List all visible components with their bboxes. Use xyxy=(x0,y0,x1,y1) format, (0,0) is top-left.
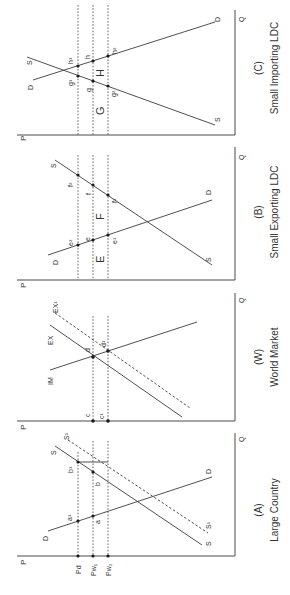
panel-c-letter: (C) xyxy=(253,61,264,75)
panel-c-point-g2 xyxy=(106,84,109,87)
panel-c-demand-label-low: D xyxy=(27,85,34,90)
panel-b-supply-label-high: S xyxy=(205,257,212,262)
panel-c-label-g: g xyxy=(85,88,93,92)
panel-a-title: Large Country xyxy=(269,478,280,541)
panel-b-label-f2: f² xyxy=(67,182,74,187)
panel-a-letter: (A) xyxy=(253,503,264,516)
panel-b-demand-label-low: D xyxy=(52,260,59,265)
panel-b-point-f1 xyxy=(106,193,109,196)
panel-w-label-c1: c¹ xyxy=(98,413,105,420)
panel-a-point-a xyxy=(91,514,94,517)
panel-c-point-h xyxy=(91,59,94,62)
panel-c-demand-curve xyxy=(33,22,215,80)
four-panel-trade-diagram: P Q D S D S h¹ h h² g¹ g g² G H (C) Smal… xyxy=(0,0,290,595)
panel-b-letter: (B) xyxy=(253,205,264,218)
panel-a-price-tick-pd: Pd xyxy=(75,565,82,574)
panel-c-supply-label-low: S xyxy=(26,60,33,65)
panel-w-im-label: IM xyxy=(47,377,54,385)
panel-a-point-a1 xyxy=(76,519,79,522)
panel-c-point-h2 xyxy=(106,54,109,57)
panel-c-demand-label-high: D xyxy=(214,17,221,22)
panel-c-label-h1: h¹ xyxy=(67,57,74,64)
panel-b-label-e1: e¹ xyxy=(111,237,118,244)
panel-w-import-demand-curve xyxy=(50,322,197,370)
panel-c-price-axis-label: P xyxy=(19,136,28,141)
panel-w-ex-label: EX xyxy=(47,335,54,345)
panel-w-point-c xyxy=(91,419,95,423)
panel-w-export-supply-curve xyxy=(50,325,182,417)
panel-c-label-h: h xyxy=(84,55,91,59)
panel-a-quantity-axis-label: Q xyxy=(238,436,246,442)
panel-b-quantity-axis-label: Q xyxy=(238,154,246,160)
panel-c-label-h2: h² xyxy=(111,47,118,54)
panel-w-price-axis-label: P xyxy=(19,425,28,430)
panel-a-label-b1: b¹ xyxy=(67,466,74,473)
panel-a-tick-pd xyxy=(76,554,79,557)
panel-a-label-a1: a¹ xyxy=(66,514,73,521)
panel-a-price-tick-pw2: Pw₂ xyxy=(105,563,112,576)
panel-w-point-d xyxy=(91,355,95,359)
panel-b-point-f2 xyxy=(76,173,79,176)
panel-a-point-b1 xyxy=(76,460,79,463)
panel-b-point-e1 xyxy=(106,233,109,236)
panel-c-label-g2: g² xyxy=(110,90,118,97)
panel-w-title: World Market xyxy=(269,327,280,386)
panel-a-label-b: b xyxy=(94,482,101,486)
panel-b-title: Small Exporting LDC xyxy=(269,166,280,259)
panel-w-world-market: P Q IM EX EX¹ d d¹ c c¹ (W) World Market xyxy=(17,293,280,430)
panel-w-ex1-label: EX¹ xyxy=(52,301,59,313)
panel-a-price-tick-pw1: Pw₁ xyxy=(90,563,97,576)
panel-a-supply-label-low: S xyxy=(50,450,57,455)
panel-b-price-axis-label: P xyxy=(19,283,28,288)
panel-c-point-g xyxy=(91,79,94,82)
panel-a-label-a: a xyxy=(94,520,101,524)
panel-w-label-c: c xyxy=(84,413,91,417)
panel-c-small-importing-ldc: P Q D S D S h¹ h h² g¹ g g² G H (C) Smal… xyxy=(17,5,280,141)
panel-a-supply-shifted-curve xyxy=(68,440,208,533)
panel-a-price-axis-label: P xyxy=(19,560,28,565)
panel-w-label-d1: d¹ xyxy=(100,340,107,347)
panel-b-area-e: E xyxy=(94,256,106,263)
panel-a-tick-pw2 xyxy=(106,554,109,557)
panel-b-label-f1: f¹ xyxy=(111,198,118,203)
panel-w-point-c1 xyxy=(106,419,110,423)
panel-c-point-h1 xyxy=(76,64,79,67)
panel-a-large-country: P Q D S S¹ D S S¹ a¹ a b¹ b Pd Pw₁ Pw₂ (… xyxy=(17,432,280,576)
panel-w-letter: (W) xyxy=(253,349,264,365)
panel-b-point-e xyxy=(91,238,94,241)
panel-b-label-e2: e² xyxy=(67,239,74,246)
panel-w-point-d1 xyxy=(106,349,110,353)
panel-b-point-f xyxy=(91,183,94,186)
panel-a-supply-shifted-label-high: S¹ xyxy=(205,521,212,529)
panel-w-quantity-axis-label: Q xyxy=(238,297,246,303)
panel-c-label-g1: g¹ xyxy=(67,79,75,86)
panel-w-label-d: d xyxy=(84,348,91,352)
panel-c-area-h: H xyxy=(94,69,106,77)
panel-a-supply-label-high: S xyxy=(205,541,212,546)
panel-a-supply-shifted-label-low: S¹ xyxy=(63,432,70,440)
panel-a-demand-label-high: D xyxy=(205,469,212,474)
panel-c-title: Small Importing LDC xyxy=(269,22,280,114)
panel-b-label-e: e xyxy=(84,237,91,241)
panel-b-supply-label-low: S xyxy=(50,163,57,168)
panel-a-demand-curve xyxy=(48,477,212,531)
panel-c-area-g: G xyxy=(94,106,106,115)
panel-a-demand-label-low: D xyxy=(42,536,49,541)
panel-b-area-f: F xyxy=(94,213,106,220)
panel-b-small-exporting-ldc: P Q D S D S f² f f¹ e² e e¹ E F (B) Smal… xyxy=(17,147,280,288)
panel-b-label-f: f xyxy=(85,193,92,195)
panel-b-point-e2 xyxy=(76,243,79,246)
panel-b-demand-label-high: D xyxy=(205,190,212,195)
panel-c-supply-label-high: S xyxy=(214,117,221,122)
panel-a-point-b xyxy=(91,470,94,473)
panel-w-export-supply-shifted-curve xyxy=(55,313,190,408)
panel-a-tick-pw1 xyxy=(91,554,94,557)
panel-c-quantity-axis-label: Q xyxy=(238,16,246,22)
panel-c-supply-curve xyxy=(27,57,215,125)
panel-c-point-g1 xyxy=(76,74,79,77)
